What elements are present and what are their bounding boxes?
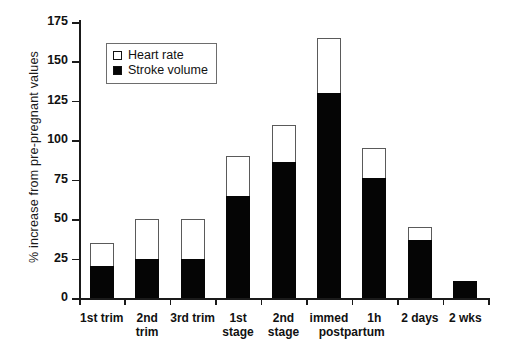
- bar-segment-stroke-volume: [226, 196, 250, 299]
- x-tick: [170, 298, 172, 305]
- y-tick-label: 50: [0, 211, 68, 225]
- y-tick: [72, 180, 80, 182]
- bar-segment-stroke-volume: [362, 178, 386, 298]
- bar-4: [272, 125, 296, 298]
- x-tick: [261, 298, 263, 305]
- y-tick: [72, 61, 80, 63]
- y-tick-label: 75: [0, 172, 68, 186]
- bar-segment-stroke-volume: [317, 93, 341, 298]
- open-square-icon: [113, 51, 122, 60]
- bar-3: [226, 156, 250, 298]
- bar-segment-stroke-volume: [453, 281, 477, 298]
- bar-segment-stroke-volume: [181, 259, 205, 298]
- bar-segment-stroke-volume: [272, 162, 296, 298]
- x-tick: [124, 298, 126, 305]
- x-tick: [397, 298, 399, 305]
- legend-label-heart-rate: Heart rate: [128, 48, 184, 63]
- bar-segment-stroke-volume: [135, 259, 159, 298]
- y-tick-label: 175: [0, 14, 68, 28]
- bar-2: [181, 219, 205, 298]
- y-tick-label: 125: [0, 93, 68, 107]
- chart-legend: Heart rate Stroke volume: [106, 43, 217, 84]
- bar-1: [135, 219, 159, 298]
- x-tick: [215, 298, 217, 305]
- bar-8: [453, 281, 477, 298]
- bar-5: [317, 38, 341, 298]
- y-tick: [72, 259, 80, 261]
- x-tick: [488, 298, 490, 305]
- y-tick-label: 150: [0, 53, 68, 67]
- y-tick: [72, 140, 80, 142]
- chart-figure: % increase from pre-pregnant values 0255…: [0, 0, 517, 361]
- y-tick-label: 25: [0, 251, 68, 265]
- bar-6: [362, 148, 386, 298]
- bar-7: [408, 227, 432, 298]
- x-tick: [79, 298, 81, 305]
- y-tick: [72, 101, 80, 103]
- y-tick-label: 0: [0, 290, 68, 304]
- legend-item-heart-rate: Heart rate: [113, 48, 208, 63]
- x-tick: [352, 298, 354, 305]
- x-tick: [443, 298, 445, 305]
- y-tick: [72, 22, 80, 24]
- y-tick: [72, 219, 80, 221]
- legend-item-stroke-volume: Stroke volume: [113, 63, 208, 78]
- bar-segment-stroke-volume: [408, 240, 432, 298]
- postpartum-annotation: postpartum: [292, 325, 412, 339]
- bar-segment-stroke-volume: [90, 266, 114, 298]
- bar-0: [90, 243, 114, 298]
- y-tick-label: 100: [0, 132, 68, 146]
- filled-square-icon: [113, 66, 122, 75]
- legend-label-stroke-volume: Stroke volume: [128, 63, 208, 78]
- x-label-8: 2 wks: [431, 311, 499, 325]
- x-tick: [306, 298, 308, 305]
- x-axis-line: [79, 298, 488, 300]
